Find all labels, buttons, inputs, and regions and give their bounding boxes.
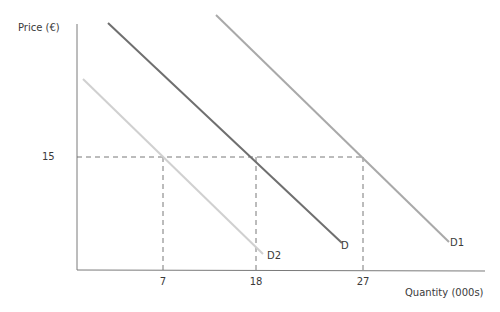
x-axis — [77, 270, 485, 271]
y-axis-label: Price (€) — [18, 22, 60, 33]
demand-shift-chart: Price (€) Quantity (000s) 15 7 18 27 D D… — [0, 0, 500, 312]
demand-curve-d — [108, 23, 342, 243]
demand-curve-d2 — [83, 79, 263, 254]
y-tick-15: 15 — [42, 151, 55, 162]
chart-canvas — [0, 0, 500, 312]
x-tick-27: 27 — [357, 276, 370, 287]
x-axis-label: Quantity (000s) — [405, 287, 484, 298]
curve-label-d1: D1 — [450, 237, 464, 248]
demand-curve-d1 — [216, 15, 449, 242]
x-tick-7: 7 — [160, 276, 166, 287]
curve-label-d2: D2 — [267, 250, 281, 261]
x-tick-18: 18 — [250, 276, 263, 287]
curve-label-d: D — [341, 240, 349, 251]
